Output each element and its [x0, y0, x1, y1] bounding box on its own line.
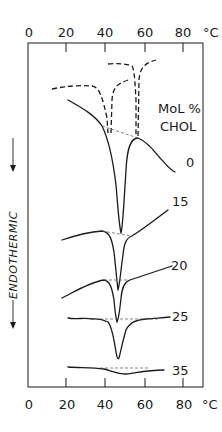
curve-label-20: 20: [171, 258, 188, 273]
curve-label-0: 0: [186, 155, 194, 170]
bottom-tick-80: 80: [176, 397, 193, 412]
top-tick-60: 60: [137, 25, 154, 40]
svg-text:ENDOTHERMIC: ENDOTHERMIC: [7, 211, 20, 299]
bottom-tick-0: 0: [25, 397, 33, 412]
bottom-tick-20: 20: [59, 397, 76, 412]
curve-label-15: 15: [172, 194, 189, 209]
bottom-tick-40: 40: [97, 397, 114, 412]
arrow-down-icon: [10, 165, 16, 172]
top-tick-80: 80: [175, 25, 192, 40]
legend-title-line1: MoL %: [158, 101, 201, 116]
endothermic-axis-label: ENDOTHERMIC: [7, 138, 20, 329]
bottom-axis: 0 20 40 60 80 °C: [25, 378, 218, 412]
dsc-thermogram-chart: 0 20 40 60 80 °C 0 20 40 60 80 °C ENDOTH…: [0, 0, 222, 432]
top-tick-40: 40: [97, 25, 114, 40]
top-axis: 0 20 40 60 80 °C: [25, 25, 219, 52]
bottom-unit-label: °C: [202, 397, 218, 412]
curve-35: 35: [68, 363, 189, 378]
dashed-curve-low: [52, 86, 108, 133]
curve-15: 15: [62, 194, 189, 290]
top-tick-0: 0: [25, 25, 33, 40]
dashed-curve-high-upper: [138, 60, 156, 136]
curve-label-35: 35: [172, 363, 189, 378]
top-tick-20: 20: [58, 25, 75, 40]
curve-25: 25: [68, 309, 189, 359]
legend-title-line2: CHOL: [160, 119, 197, 134]
curve-20: 20: [62, 258, 188, 322]
arrow-down-icon: [10, 322, 16, 329]
dashed-curve-low-upper: [111, 80, 128, 133]
plot-frame: [28, 43, 203, 387]
top-unit-label: °C: [203, 25, 219, 40]
curve-label-25: 25: [172, 309, 189, 324]
bottom-tick-60: 60: [137, 397, 154, 412]
